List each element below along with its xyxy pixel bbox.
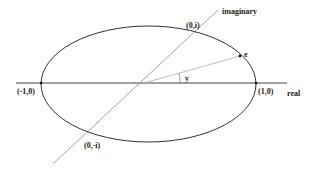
imaginary-axis (53, 10, 218, 164)
point-right-label: (1,0) (258, 88, 273, 96)
angle-label: y (185, 75, 189, 83)
point-bottom-label: (0,-i) (84, 142, 100, 150)
ray-to-e (144, 56, 240, 83)
point-top-label: (0,i) (186, 22, 200, 30)
angle-arc (179, 73, 180, 83)
point-e (239, 55, 242, 58)
unit-ellipse (41, 26, 256, 142)
point-right (255, 82, 258, 85)
point-e-label: e (244, 51, 248, 59)
point-left-label: (-1,0) (17, 88, 35, 96)
imaginary-axis-label: imaginary (222, 8, 257, 16)
point-left (40, 82, 43, 85)
real-axis-label: real (287, 90, 300, 98)
